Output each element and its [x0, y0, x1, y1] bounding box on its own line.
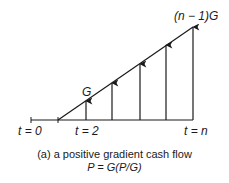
- caption-formula: P = G(P/G): [0, 162, 229, 173]
- label-tn: t = n: [184, 125, 208, 137]
- label-t2: t = 2: [75, 125, 99, 137]
- label-g: G: [82, 86, 91, 98]
- label-t0: t = 0: [18, 125, 42, 137]
- gradient-line: [58, 27, 193, 120]
- label-n-minus-1-g: (n − 1)G: [174, 10, 218, 22]
- caption-title: (a) a positive gradient cash flow: [0, 149, 229, 160]
